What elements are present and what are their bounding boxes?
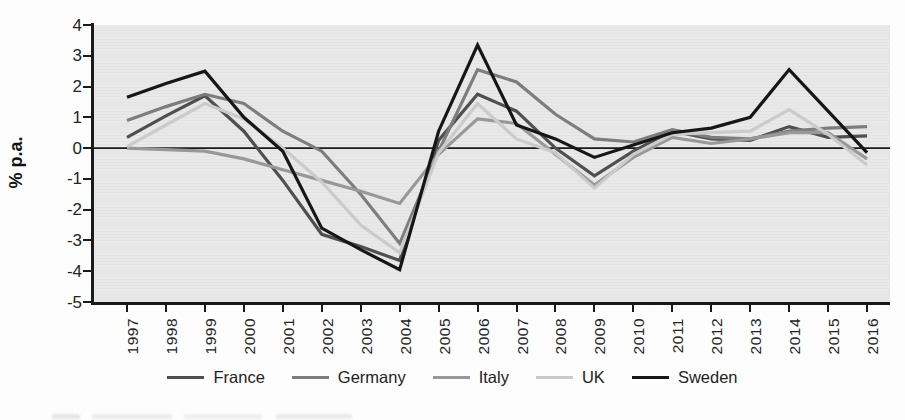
y-tick-label: 2	[48, 78, 82, 95]
y-tick	[83, 55, 92, 57]
plot-area	[94, 25, 890, 302]
y-tick-label: 1	[48, 109, 82, 126]
legend-swatch-france	[167, 376, 204, 379]
x-tick-label-2001: 2001	[281, 318, 297, 364]
x-tick	[671, 305, 673, 312]
y-axis-line	[91, 23, 94, 304]
x-tick-label-1998: 1998	[164, 318, 180, 364]
x-tick-label-2006: 2006	[476, 318, 492, 364]
y-tick	[83, 209, 92, 211]
y-tick-label: 0	[48, 140, 82, 157]
y-axis-title: % p.a.	[6, 103, 27, 223]
legend-item-germany: Germany	[292, 368, 406, 387]
x-tick	[710, 305, 712, 312]
x-tick	[438, 305, 440, 312]
legend-swatch-germany	[292, 376, 329, 379]
x-tick	[204, 305, 206, 312]
x-tick	[360, 305, 362, 312]
legend-swatch-sweden	[632, 376, 669, 379]
y-tick-label: 4	[48, 17, 82, 34]
x-tick-label-2016: 2016	[865, 318, 881, 364]
series-line-italy	[127, 119, 867, 204]
x-tick	[126, 305, 128, 312]
legend-swatch-italy	[433, 376, 470, 379]
y-tick	[83, 116, 92, 118]
x-tick	[477, 305, 479, 312]
x-tick-label-2011: 2011	[670, 318, 686, 364]
x-tick-label-2000: 2000	[242, 318, 258, 364]
legend-item-uk: UK	[536, 368, 605, 387]
x-tick-label-2005: 2005	[437, 318, 453, 364]
x-tick	[827, 305, 829, 312]
legend-label: Germany	[338, 368, 406, 387]
y-tick	[83, 301, 92, 303]
legend-item-france: France	[167, 368, 264, 387]
x-tick-label-2013: 2013	[748, 318, 764, 364]
y-tick	[83, 270, 92, 272]
legend-item-sweden: Sweden	[632, 368, 738, 387]
x-tick-label-2007: 2007	[515, 318, 531, 364]
legend-swatch-uk	[536, 376, 573, 379]
x-tick-label-1997: 1997	[125, 318, 141, 364]
x-tick	[282, 305, 284, 312]
y-tick	[83, 178, 92, 180]
y-tick-label: -3	[48, 232, 82, 249]
x-tick	[554, 305, 556, 312]
y-tick	[83, 147, 92, 149]
y-tick	[83, 239, 92, 241]
legend-label: France	[213, 368, 264, 387]
legend-label: Sweden	[678, 368, 738, 387]
x-tick-label-2012: 2012	[709, 318, 725, 364]
y-tick	[83, 86, 92, 88]
x-tick-label-2008: 2008	[553, 318, 569, 364]
legend: FranceGermanyItalyUKSweden	[0, 368, 905, 387]
plot-svg	[94, 25, 890, 302]
chart-figure: % p.a. 43210-1-2-3-4-5 19971998199920002…	[0, 0, 905, 420]
y-tick-label: -5	[48, 294, 82, 311]
x-tick	[749, 305, 751, 312]
x-tick	[593, 305, 595, 312]
x-tick	[243, 305, 245, 312]
y-tick-label: -2	[48, 201, 82, 218]
x-tick	[788, 305, 790, 312]
x-tick-label-2004: 2004	[398, 318, 414, 364]
cropped-caption-remnant	[52, 414, 352, 419]
x-tick	[632, 305, 634, 312]
x-tick	[516, 305, 518, 312]
x-axis-line	[91, 302, 890, 305]
x-tick-label-2003: 2003	[359, 318, 375, 364]
y-tick	[83, 24, 92, 26]
x-tick-label-2010: 2010	[631, 318, 647, 364]
x-tick-label-2002: 2002	[320, 318, 336, 364]
y-tick-label: -1	[48, 170, 82, 187]
legend-item-italy: Italy	[433, 368, 509, 387]
x-tick-label-1999: 1999	[203, 318, 219, 364]
y-tick-label: -4	[48, 263, 82, 280]
x-tick-label-2015: 2015	[826, 318, 842, 364]
x-tick	[399, 305, 401, 312]
x-tick-label-2009: 2009	[592, 318, 608, 364]
legend-label: UK	[582, 368, 605, 387]
x-tick	[165, 305, 167, 312]
y-tick-label: 3	[48, 47, 82, 64]
x-tick-label-2014: 2014	[787, 318, 803, 364]
legend-label: Italy	[479, 368, 509, 387]
x-tick	[866, 305, 868, 312]
x-tick	[321, 305, 323, 312]
